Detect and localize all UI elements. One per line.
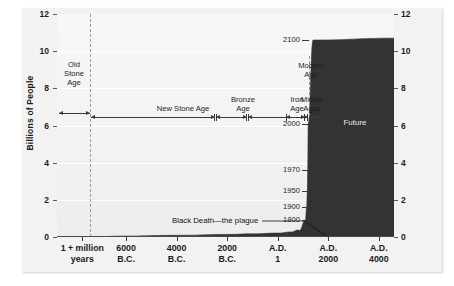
y-tick-right xyxy=(394,163,398,164)
x-axis-line xyxy=(57,236,394,237)
year-marker-label: 2100 xyxy=(262,36,300,44)
year-marker-tick xyxy=(302,207,309,208)
y-tick-right xyxy=(394,200,398,201)
y-tick-left xyxy=(53,237,57,238)
x-axis-tick xyxy=(278,237,279,241)
era-label-middle-ages: Middle Ages xyxy=(282,95,342,113)
black-death-annotation: Black Death—the plague xyxy=(172,216,258,225)
x-axis-tick-label: A.D. 4000 xyxy=(339,243,419,265)
y-axis-left-tick-label: 10 xyxy=(21,47,49,56)
y-axis-right-tick-label: 8 xyxy=(401,84,425,93)
x-axis-tick xyxy=(177,237,178,241)
x-axis-tick xyxy=(379,237,380,241)
population-area-path xyxy=(57,38,394,237)
black-death-pointer-line xyxy=(304,217,344,243)
y-axis-right-tick-label: 10 xyxy=(401,47,425,56)
x-axis-tick xyxy=(126,237,127,241)
y-axis-right-tick-label: 4 xyxy=(401,159,425,168)
era-label-modern-age: Modern Age xyxy=(279,61,343,79)
year-marker-tick xyxy=(302,40,309,41)
era-bar-modern-age xyxy=(309,114,319,121)
plot-area: Old Stone Age New Stone Age Bronze Age I… xyxy=(57,14,394,237)
y-axis-left-tick-label: 4 xyxy=(21,159,49,168)
year-marker-tick xyxy=(302,124,309,125)
future-region-label: Future xyxy=(325,118,385,127)
year-marker-label: 1950 xyxy=(262,187,300,195)
y-axis-right-tick-label: 2 xyxy=(401,196,425,205)
y-axis-left-tick-label: 6 xyxy=(21,122,49,131)
chart-figure: Billions of People 121086420 121086420 O… xyxy=(0,0,454,286)
year-marker-label: 1970 xyxy=(262,166,300,174)
old-new-stone-age-divider xyxy=(90,14,91,237)
year-marker-tick xyxy=(302,170,309,171)
y-axis-left-tick-label: 12 xyxy=(21,10,49,19)
y-axis-title: Billions of People xyxy=(25,53,35,173)
era-label-bronze-age: Bronze Age xyxy=(218,95,268,113)
era-bar-bronze-age xyxy=(216,114,247,121)
year-marker-tick xyxy=(302,191,309,192)
y-axis-right-tick-label: 0 xyxy=(401,233,425,242)
year-marker-label: 1900 xyxy=(262,203,300,211)
y-axis-left-tick-label: 0 xyxy=(21,233,49,242)
y-axis-left-tick-label: 8 xyxy=(21,84,49,93)
era-label-old-stone-age: Old Stone Age xyxy=(55,60,93,87)
y-tick-right xyxy=(394,51,398,52)
y-axis-right-tick-label: 12 xyxy=(401,10,425,19)
x-axis-tick xyxy=(82,237,83,241)
y-axis-left-tick-label: 2 xyxy=(21,196,49,205)
x-axis-tick xyxy=(328,237,329,241)
y-tick-right xyxy=(394,126,398,127)
y-tick-right xyxy=(394,237,398,238)
era-bar-new-stone-age xyxy=(91,114,215,121)
y-tick-right xyxy=(394,88,398,89)
x-axis-tick xyxy=(227,237,228,241)
y-tick-right xyxy=(394,14,398,15)
year-marker-label: 2000 xyxy=(262,120,300,128)
y-axis-right-tick-label: 6 xyxy=(401,122,425,131)
era-bar-old-stone-age xyxy=(59,110,90,117)
